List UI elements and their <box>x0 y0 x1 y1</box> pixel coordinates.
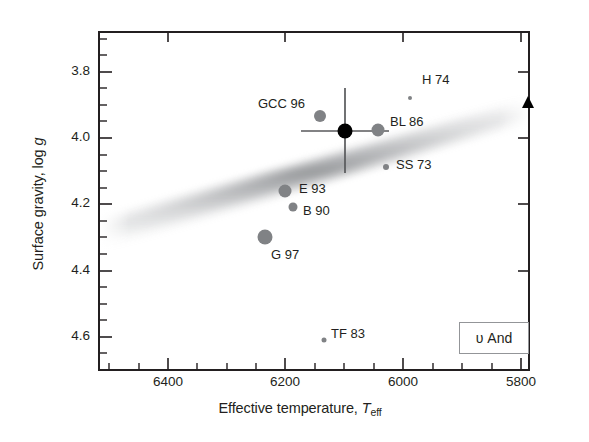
point-label-ss-73: SS 73 <box>396 157 431 172</box>
y-axis-title: Surface gravity, log g <box>30 74 46 334</box>
y-axis-title-symbol: g <box>30 138 46 146</box>
marker-bl-86 <box>372 124 385 137</box>
ytick-label-4-6: 4.6 <box>50 328 90 343</box>
point-label-b-90: B 90 <box>303 203 330 218</box>
evolutionary-track-band <box>99 32 529 370</box>
xtick-label-6000: 6000 <box>373 374 433 389</box>
ytick-label-4-4: 4.4 <box>50 262 90 277</box>
marker-g-97 <box>258 230 273 245</box>
x-axis-title-subscript: eff <box>370 407 381 418</box>
point-label-h-74: H 74 <box>422 72 449 87</box>
marker-b-90 <box>289 203 298 212</box>
marker-this-work <box>338 124 353 139</box>
legend-box: υ And <box>459 322 529 354</box>
ytick-label-4-0: 4.0 <box>50 129 90 144</box>
point-label-bl-86: BL 86 <box>390 114 424 129</box>
x-axis-title: Effective temperature, Teff <box>110 400 490 418</box>
xtick-label-6200: 6200 <box>255 374 315 389</box>
marker-ss-73 <box>383 164 389 170</box>
ytick-label-4-2: 4.2 <box>50 195 90 210</box>
marker-tf-83 <box>322 338 327 343</box>
figure-container: 3.8 4.0 4.2 4.4 4.6 6400 6200 6000 5800 … <box>0 0 589 442</box>
point-label-tf-83: TF 83 <box>331 326 365 341</box>
marker-gcc-96 <box>314 110 326 122</box>
y-axis-title-main: Surface gravity, log <box>30 146 46 271</box>
x-axis-title-main: Effective temperature, <box>218 400 361 416</box>
xtick-label-5800: 5800 <box>491 374 551 389</box>
marker-e-93 <box>279 185 292 198</box>
point-label-gcc-96: GCC 96 <box>258 96 305 111</box>
ytick-label-3-8: 3.8 <box>50 63 90 78</box>
marker-h-74 <box>408 96 412 100</box>
point-label-e-93: E 93 <box>299 181 326 196</box>
xtick-label-6400: 6400 <box>138 374 198 389</box>
point-label-g-97: G 97 <box>271 247 299 262</box>
legend-label: υ And <box>476 330 512 346</box>
